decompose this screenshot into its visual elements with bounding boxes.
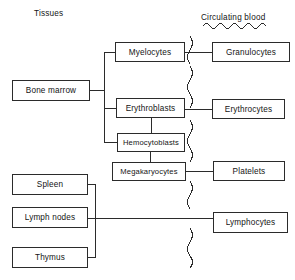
node-myelocytes[interactable]: Myelocytes	[115, 42, 185, 62]
node-erythroblasts[interactable]: Erythroblasts	[116, 98, 185, 118]
node-lymph-nodes[interactable]: Lymph nodes	[12, 207, 88, 228]
wavy-boundary-segment-5	[188, 228, 193, 268]
node-bone-marrow[interactable]: Bone marrow	[12, 80, 90, 101]
wavy-boundary-segment-1	[188, 36, 193, 64]
circulating-blood-label: Circulating blood	[201, 13, 265, 22]
node-lymphocytes[interactable]: Lymphocytes	[213, 212, 288, 233]
node-erythrocytes[interactable]: Erythrocytes	[212, 99, 285, 119]
wavy-boundary-segment-3	[188, 120, 193, 162]
hematopoiesis-diagram: Tissues Circulating blood Myelocytes Gra…	[0, 0, 295, 280]
wavy-boundary-segment-4	[188, 181, 193, 209]
node-platelets[interactable]: Platelets	[213, 161, 285, 181]
node-thymus[interactable]: Thymus	[12, 247, 88, 268]
node-spleen[interactable]: Spleen	[12, 174, 88, 195]
tissues-label: Tissues	[34, 9, 63, 18]
node-granulocytes[interactable]: Granulocytes	[212, 42, 290, 62]
node-megakaryocytes[interactable]: Megakaryocytes	[112, 162, 186, 181]
node-hemocytoblasts[interactable]: Hemocytoblasts	[117, 133, 185, 152]
wavy-boundary-segment-2	[188, 66, 193, 108]
wavy-underline-circulating-blood	[203, 24, 266, 29]
